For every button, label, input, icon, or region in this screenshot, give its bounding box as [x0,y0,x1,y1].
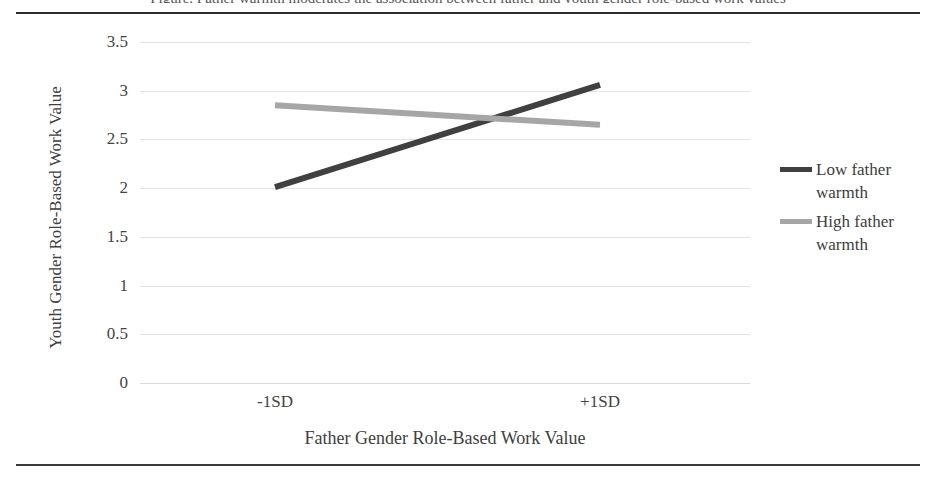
legend: Low father warmth High father warmth [780,158,930,262]
legend-label-line: warmth [816,235,868,254]
y-tick-label: 1 [68,276,128,296]
y-tick-label: 0.5 [68,324,128,344]
x-axis-tick-labels: -1SD +1SD [140,392,750,416]
chart: Youth Gender Role-Based Work Value 3.5 3… [0,0,936,492]
legend-swatch-icon [780,219,812,224]
y-tick-label: 3 [68,81,128,101]
x-tick-label: +1SD [580,392,620,412]
gridline-baseline [140,383,750,384]
y-tick-label: 3.5 [68,32,128,52]
x-tick-label: -1SD [257,392,293,412]
y-axis-title: Youth Gender Role-Based Work Value [44,43,67,393]
plot-area [140,42,750,383]
legend-label-line: Low father [816,160,891,179]
y-tick-label: 0 [68,373,128,393]
y-tick-label: 2 [68,178,128,198]
series-line-low-father-warmth [275,85,600,187]
legend-item-high-father-warmth[interactable]: High father warmth [780,210,930,256]
y-tick-label: 2.5 [68,129,128,149]
legend-label-line: High father [816,212,894,231]
y-tick-label: 1.5 [68,227,128,247]
legend-label: High father warmth [816,210,930,256]
series-line-high-father-warmth [275,105,600,124]
y-axis-tick-labels: 3.5 3 2.5 2 1.5 1 0.5 0 [68,0,128,492]
legend-label-line: warmth [816,183,868,202]
legend-label: Low father warmth [816,158,930,204]
series-lines [140,42,750,383]
legend-swatch-icon [780,167,812,172]
legend-item-low-father-warmth[interactable]: Low father warmth [780,158,930,204]
x-axis-title: Father Gender Role-Based Work Value [140,428,750,449]
